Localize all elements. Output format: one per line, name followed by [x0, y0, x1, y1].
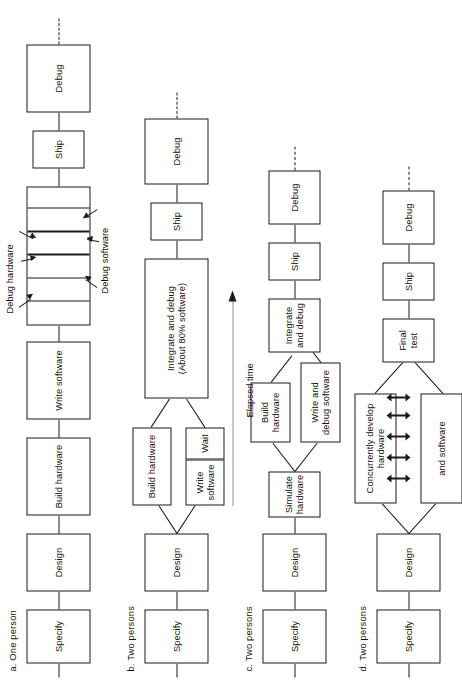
- fan-b-up: [158, 504, 178, 533]
- stack-divider-2: [27, 277, 89, 278]
- node-a-ship: Ship: [32, 130, 84, 168]
- fan-d-up: [381, 503, 409, 534]
- fanin-c-up: [270, 355, 292, 383]
- node-b-wait: Wait: [185, 427, 224, 459]
- node-d-concurrent-software: and software: [420, 393, 462, 503]
- fanin-d-down: [414, 361, 443, 393]
- node-c-simulate-hardware: Simulate hardware: [268, 471, 320, 517]
- link-b-3: [176, 184, 177, 202]
- node-b-ship: Ship: [150, 202, 202, 240]
- node-d-concurrent-hardware: Concurrently develop hardware: [354, 393, 396, 503]
- entry-stub-d: [408, 663, 409, 677]
- entry-stub-a: [58, 663, 59, 677]
- elapsed-time-label: Elapsed time: [243, 363, 254, 417]
- elapsed-time-line: [232, 300, 233, 505]
- link-a-2: [58, 515, 59, 533]
- node-d-concurrent-hardware-label: Concurrently develop hardware: [364, 403, 386, 493]
- continuation-dots-b: [176, 92, 177, 118]
- node-b-integrate-and-debug-label: Integrate and debug (About 80% software): [165, 282, 187, 373]
- elapsed-time-axis: [232, 289, 244, 505]
- node-b-specify: Specify: [144, 609, 208, 663]
- entry-stub-b: [176, 663, 177, 677]
- node-b-debug: Debug: [144, 118, 208, 184]
- node-d-debug: Debug: [382, 190, 434, 244]
- sync-arrow-4: [386, 412, 410, 416]
- node-a-design: Design: [26, 533, 90, 591]
- link-d-2: [408, 300, 409, 318]
- sync-arrow-2: [386, 454, 410, 458]
- link-b-1: [176, 591, 177, 609]
- fan-c-down: [294, 442, 317, 471]
- node-d-ship: Ship: [382, 262, 434, 300]
- node-b-write-software: Write software: [185, 459, 224, 505]
- node-c-build-hardware: Build hardware: [250, 382, 290, 442]
- entry-stub-c: [294, 663, 295, 677]
- node-a-debug: Debug: [26, 44, 90, 112]
- node-c-write-and-debug-software: Write and debug software: [300, 362, 340, 442]
- link-b-2: [176, 240, 177, 258]
- node-a-specify: Specify: [26, 609, 90, 663]
- caption-b: b. Two persons: [124, 605, 135, 671]
- link-a-5: [58, 168, 59, 186]
- stack-divider-1: [27, 300, 89, 301]
- sync-arrow-5: [386, 394, 410, 398]
- link-c-2: [294, 517, 295, 533]
- node-c-write-and-debug-software-label: Write and debug software: [309, 370, 331, 435]
- label-debug-software: Debug software: [99, 227, 109, 293]
- continuation-dots-d: [408, 166, 409, 190]
- node-c-specify: Specify: [262, 609, 326, 663]
- link-a-6: [58, 112, 59, 130]
- node-b-integrate-and-debug: Integrate and debug (About 80% software): [144, 258, 208, 398]
- link-d-1: [408, 591, 409, 609]
- link-a-4: [58, 325, 59, 341]
- node-a-build-hardware: Build hardware: [26, 437, 90, 515]
- node-c-design: Design: [262, 533, 326, 591]
- stack-divider-5: [27, 207, 89, 208]
- sync-arrow-3: [386, 433, 410, 437]
- fanin-b-up: [150, 398, 170, 427]
- label-debug-hardware: Debug hardware: [4, 244, 14, 313]
- sync-arrow-1: [386, 475, 410, 479]
- link-a-3: [58, 419, 59, 437]
- node-d-concurrent-software-label: and software: [436, 421, 447, 475]
- fan-c-up: [272, 442, 295, 471]
- node-d-specify: Specify: [376, 609, 440, 663]
- node-d-final-test: Final test: [382, 318, 434, 362]
- link-c-1: [294, 591, 295, 609]
- node-c-build-hardware-label: Build hardware: [259, 392, 281, 432]
- link-d-3: [408, 244, 409, 262]
- node-c-debug: Debug: [268, 170, 320, 224]
- caption-c: c. Two persons: [242, 606, 253, 671]
- elapsed-time-arrowhead: [228, 290, 236, 301]
- node-c-ship: Ship: [268, 242, 320, 280]
- node-d-design: Design: [376, 533, 440, 591]
- node-b-design: Design: [144, 533, 208, 591]
- fan-b-down: [176, 504, 196, 533]
- node-b-build-hardware: Build hardware: [132, 427, 171, 505]
- fanin-d-up: [374, 361, 403, 393]
- link-c-4: [294, 224, 295, 242]
- stack-divider-3: [27, 253, 89, 254]
- link-c-3: [294, 280, 295, 298]
- node-c-simulate-hardware-label: Simulate hardware: [283, 474, 305, 514]
- node-a-write-software: Write software: [26, 341, 90, 419]
- node-b-write-software-label: Write software: [194, 464, 216, 500]
- caption-d: d. Two persons: [356, 605, 367, 671]
- continuation-dots-a: [58, 18, 59, 44]
- stack-divider-4: [27, 230, 89, 231]
- caption-a: a. One person: [6, 610, 17, 671]
- node-c-integrate-and-debug: Integrate and debug: [268, 298, 320, 352]
- fan-d-down: [408, 503, 436, 534]
- node-d-final-test-label: Final test: [397, 330, 419, 351]
- continuation-dots-c: [294, 146, 295, 170]
- link-a-1: [58, 591, 59, 609]
- fanin-b-down: [186, 398, 206, 427]
- node-c-integrate-and-debug-label: Integrate and debug: [283, 303, 305, 348]
